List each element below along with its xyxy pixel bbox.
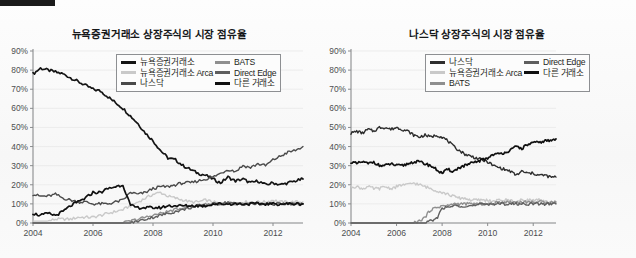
legend-swatch-line-icon xyxy=(215,82,230,85)
svg-text:20%: 20% xyxy=(329,180,346,190)
infographic-figure: 뉴욕증권거래소 상장주식의 시장 점유율 0%10%20%30%40%50%60… xyxy=(0,0,636,258)
legend-item-nyse-arca[interactable]: 뉴욕증권거래소 Arca xyxy=(121,68,213,79)
legend-swatch-line-icon xyxy=(121,71,136,74)
svg-text:20%: 20% xyxy=(11,180,28,190)
svg-text:70%: 70% xyxy=(11,84,28,94)
legend-label: 다른 거래소 xyxy=(543,68,584,78)
legend-column-secondary: Direct Edge 다른 거래소 xyxy=(524,57,585,89)
legend-swatch-line-icon xyxy=(121,82,136,85)
legend-item-other[interactable]: 다른 거래소 xyxy=(524,68,585,79)
svg-text:2008: 2008 xyxy=(433,228,452,238)
svg-text:80%: 80% xyxy=(11,65,28,75)
svg-text:50%: 50% xyxy=(329,122,346,132)
legend-item-nasdaq[interactable]: 나스닥 xyxy=(430,57,522,68)
svg-text:2008: 2008 xyxy=(143,228,162,238)
chart-panel-nyse-listed: 뉴욕증권거래소 상장주식의 시장 점유율 0%10%20%30%40%50%60… xyxy=(0,0,318,258)
legend-item-direct-edge[interactable]: Direct Edge xyxy=(524,57,585,68)
legend-item-bats[interactable]: BATS xyxy=(215,57,276,68)
legend-item-nyse-arca[interactable]: 뉴욕증권거래소 Arca xyxy=(430,68,522,79)
svg-text:40%: 40% xyxy=(11,142,28,152)
legend-label: BATS xyxy=(449,78,470,88)
svg-text:2006: 2006 xyxy=(83,228,102,238)
svg-text:90%: 90% xyxy=(329,46,346,56)
legend-column-secondary: BATS Direct Edge 다른 거래소 xyxy=(215,57,276,89)
svg-text:80%: 80% xyxy=(329,65,346,75)
svg-text:30%: 30% xyxy=(329,161,346,171)
legend-label: 뉴욕증권거래소 xyxy=(140,57,194,67)
legend-column-primary: 뉴욕증권거래소 뉴욕증권거래소 Arca 나스닥 xyxy=(121,57,213,89)
svg-text:2010: 2010 xyxy=(478,228,497,238)
legend-item-direct-edge[interactable]: Direct Edge xyxy=(215,68,276,79)
legend-swatch-line-icon xyxy=(430,71,445,74)
legend-label: 나스닥 xyxy=(449,57,472,67)
chart-legend-nasdaq: 나스닥 뉴욕증권거래소 Arca BATS Direct Edge 다른 거래소 xyxy=(425,54,590,92)
legend-swatch-line-icon xyxy=(215,71,230,74)
svg-text:0%: 0% xyxy=(334,218,347,228)
chart-plot-nyse: 0%10%20%30%40%50%60%70%80%90%20042006200… xyxy=(0,0,318,258)
legend-item-other[interactable]: 다른 거래소 xyxy=(215,78,276,89)
svg-text:10%: 10% xyxy=(11,199,28,209)
svg-text:2006: 2006 xyxy=(387,228,406,238)
svg-text:60%: 60% xyxy=(11,103,28,113)
svg-text:2012: 2012 xyxy=(263,228,282,238)
legend-label: 다른 거래소 xyxy=(234,78,275,88)
legend-swatch-line-icon xyxy=(121,61,136,64)
legend-label: 뉴욕증권거래소 Arca xyxy=(140,68,213,78)
chart-panel-nasdaq-listed: 나스닥 상장주식의 시장 점유율 0%10%20%30%40%50%60%70%… xyxy=(318,0,636,258)
chart-legend-nyse: 뉴욕증권거래소 뉴욕증권거래소 Arca 나스닥 BATS xyxy=(116,54,281,92)
svg-text:2012: 2012 xyxy=(524,228,543,238)
svg-text:30%: 30% xyxy=(11,161,28,171)
legend-swatch-line-icon xyxy=(215,61,230,64)
svg-text:0%: 0% xyxy=(16,218,29,228)
legend-item-bats[interactable]: BATS xyxy=(430,78,522,89)
svg-text:70%: 70% xyxy=(329,84,346,94)
legend-column-primary: 나스닥 뉴욕증권거래소 Arca BATS xyxy=(430,57,522,89)
svg-text:50%: 50% xyxy=(11,122,28,132)
legend-swatch-line-icon xyxy=(430,61,445,64)
svg-text:2004: 2004 xyxy=(23,228,42,238)
legend-item-nasdaq[interactable]: 나스닥 xyxy=(121,78,213,89)
svg-text:2004: 2004 xyxy=(341,228,360,238)
legend-label: 나스닥 xyxy=(140,78,163,88)
legend-label: BATS xyxy=(234,57,255,67)
svg-text:40%: 40% xyxy=(329,142,346,152)
chart-plot-nasdaq: 0%10%20%30%40%50%60%70%80%90%20042006200… xyxy=(318,0,636,258)
legend-label: Direct Edge xyxy=(543,57,585,67)
svg-text:10%: 10% xyxy=(329,199,346,209)
legend-label: Direct Edge xyxy=(234,68,276,78)
legend-label: 뉴욕증권거래소 Arca xyxy=(449,68,522,78)
svg-text:60%: 60% xyxy=(329,103,346,113)
legend-item-nyse[interactable]: 뉴욕증권거래소 xyxy=(121,57,213,68)
legend-swatch-line-icon xyxy=(430,82,445,85)
svg-text:90%: 90% xyxy=(11,46,28,56)
legend-swatch-line-icon xyxy=(524,71,539,74)
legend-swatch-line-icon xyxy=(524,61,539,64)
svg-text:2010: 2010 xyxy=(203,228,222,238)
